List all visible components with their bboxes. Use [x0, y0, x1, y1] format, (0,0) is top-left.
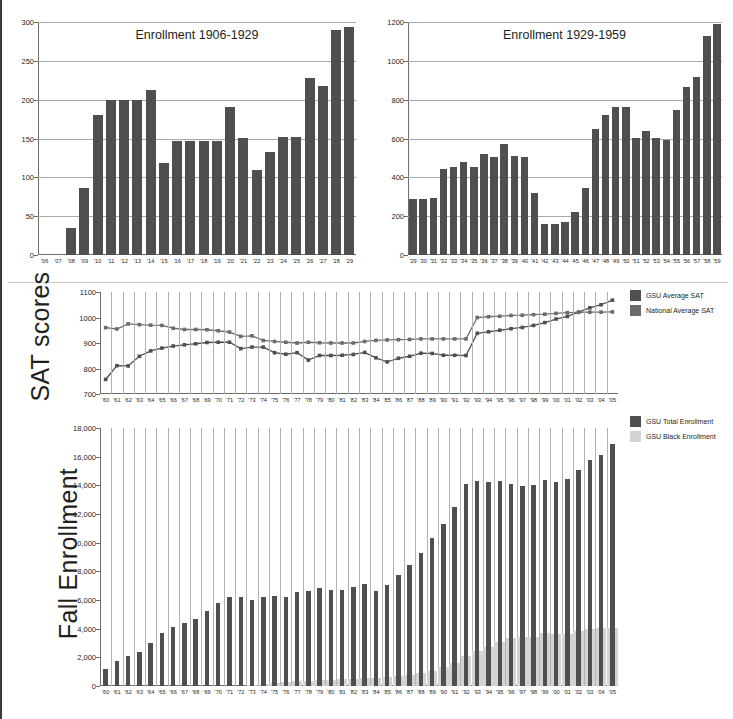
y-tick-mark: [34, 216, 38, 217]
vertical-gridline: [607, 292, 608, 394]
bar-total-enrollment: [295, 592, 300, 686]
bar: [238, 138, 248, 255]
legend-item: GSU Total Enrollment: [630, 416, 716, 427]
x-tick-label: '66: [170, 397, 177, 403]
bar: [582, 188, 589, 255]
vertical-gridline: [246, 292, 247, 394]
x-tick-label: '65: [158, 397, 165, 403]
bar: [291, 137, 301, 255]
y-tick-label: 8,000: [77, 567, 96, 576]
x-tick-label: '55: [673, 258, 680, 264]
panel-divider: [8, 282, 728, 283]
y-tick-mark: [96, 600, 100, 601]
x-tick-label: '84: [372, 689, 379, 695]
y-tick-mark: [34, 177, 38, 178]
x-tick-label: '10: [94, 258, 101, 264]
bar: [199, 141, 209, 255]
x-tick-label: '96: [507, 397, 514, 403]
bar-total-enrollment: [272, 596, 277, 686]
gridline: [408, 61, 722, 62]
x-tick-label: '49: [612, 258, 619, 264]
fall-enrollment-y-axis-title: Fall Enrollment: [54, 434, 83, 674]
y-tick-mark: [96, 485, 100, 486]
x-tick-label: '40: [521, 258, 528, 264]
x-tick-label: '41: [531, 258, 538, 264]
x-tick-label: '35: [470, 258, 477, 264]
x-tick-label: '14: [147, 258, 154, 264]
legend-item: GSU Black Enrollment: [630, 431, 716, 442]
chart-enrollment-1906-1929: 050100150200250300'06'07'08'09'10'11'12'…: [8, 14, 363, 276]
bar: [409, 199, 416, 255]
x-tick-label: '91: [451, 689, 458, 695]
x-tick-label: '71: [226, 689, 233, 695]
x-tick-label: '97: [519, 397, 526, 403]
x-tick-label: '37: [490, 258, 497, 264]
y-tick-mark: [404, 22, 408, 23]
vertical-gridline: [505, 292, 506, 394]
y-tick-label: 200: [391, 212, 404, 221]
y-tick-label: 18,000: [73, 424, 96, 433]
x-tick-label: '53: [653, 258, 660, 264]
x-tick-label: '31: [430, 258, 437, 264]
bar: [146, 90, 156, 255]
bar-total-enrollment: [205, 611, 210, 686]
x-tick-label: '66: [170, 689, 177, 695]
vertical-gridline: [336, 428, 337, 686]
x-tick-label: '99: [541, 397, 548, 403]
bar-total-enrollment: [317, 588, 322, 686]
bar: [66, 228, 76, 255]
vertical-gridline: [562, 292, 563, 394]
bar-total-enrollment: [531, 485, 536, 686]
vertical-gridline: [280, 292, 281, 394]
bar-total-enrollment: [452, 507, 457, 686]
x-tick-label: '02: [575, 689, 582, 695]
y-tick-mark: [96, 318, 100, 319]
bar-total-enrollment: [543, 480, 548, 686]
y-tick-mark: [404, 100, 408, 101]
vertical-gridline: [415, 428, 416, 686]
bar-total-enrollment: [148, 643, 153, 686]
x-tick-label: '11: [107, 258, 114, 264]
bar: [344, 27, 354, 255]
x-tick-label: '94: [485, 397, 492, 403]
bar-total-enrollment: [498, 481, 503, 686]
bar-total-enrollment: [407, 565, 412, 686]
x-tick-label: '56: [683, 258, 690, 264]
y-tick-mark: [404, 216, 408, 217]
x-tick-label: '93: [474, 397, 481, 403]
plot-area: 70080090010001100'60'61'62'63'64'65'66'6…: [100, 292, 618, 394]
legend-swatch: [630, 431, 641, 442]
y-tick-mark: [96, 514, 100, 515]
bar-total-enrollment: [554, 482, 559, 686]
bar-total-enrollment: [430, 538, 435, 686]
x-tick-label: '30: [420, 258, 427, 264]
bar: [93, 115, 103, 255]
x-tick-label: '36: [480, 258, 487, 264]
bar: [592, 129, 599, 255]
fall-enrollment-legend: GSU Total EnrollmentGSU Black Enrollment: [630, 416, 716, 446]
gridline: [38, 61, 356, 62]
x-tick-label: '03: [586, 689, 593, 695]
x-tick-label: '85: [383, 689, 390, 695]
x-tick-label: '64: [147, 397, 154, 403]
y-tick-label: 6,000: [77, 596, 96, 605]
chart-fall-enrollment: Fall Enrollment 02,0004,0006,0008,00010,…: [8, 414, 728, 714]
y-tick-label: 600: [391, 134, 404, 143]
x-tick-label: '73: [248, 689, 255, 695]
vertical-gridline: [539, 292, 540, 394]
y-tick-mark: [96, 657, 100, 658]
bar: [305, 78, 315, 255]
vertical-gridline: [156, 428, 157, 686]
vertical-gridline: [123, 292, 124, 394]
bar-total-enrollment: [588, 460, 593, 686]
vertical-gridline: [314, 292, 315, 394]
x-tick-label: '67: [181, 397, 188, 403]
x-tick-label: '98: [530, 397, 537, 403]
x-tick-label: '02: [575, 397, 582, 403]
bar-total-enrollment: [441, 524, 446, 686]
x-tick-label: '87: [406, 397, 413, 403]
y-tick-mark: [34, 255, 38, 256]
x-tick-label: '82: [350, 397, 357, 403]
x-tick-label: '34: [460, 258, 467, 264]
legend-swatch: [630, 416, 641, 427]
